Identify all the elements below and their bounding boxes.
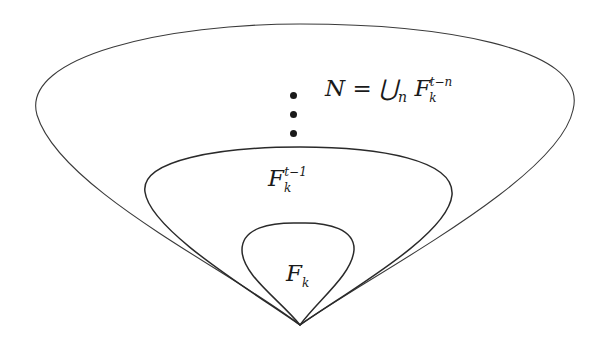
union-index: n [398, 89, 407, 105]
set-subscript: k [284, 181, 291, 195]
set-symbol: F [286, 260, 302, 286]
set-symbol: F [268, 165, 284, 191]
outer-region-label: N = ⋃n Fkt−n [325, 75, 452, 105]
set-subscript: k [302, 276, 309, 290]
ellipsis-dot-2 [290, 111, 297, 118]
set-superscript: t−1 [284, 165, 307, 179]
set-symbol: F [414, 75, 430, 101]
middle-region-label: Fkt−1 [268, 165, 307, 195]
ellipsis-dot-1 [290, 92, 297, 99]
inner-region-label: Fk [286, 260, 309, 290]
set-superscript: t−n [430, 75, 453, 89]
union-expression: N = ⋃ [325, 75, 398, 101]
ellipsis-dot-3 [290, 130, 297, 137]
set-subscript: k [429, 91, 436, 105]
